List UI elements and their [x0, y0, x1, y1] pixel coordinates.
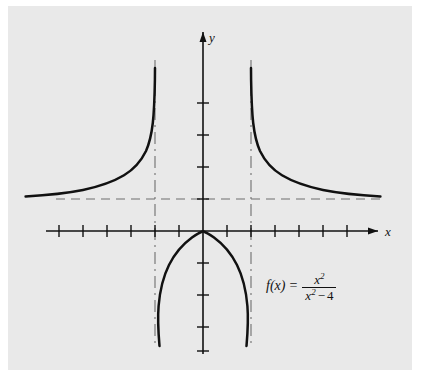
- graph-canvas: y x: [8, 6, 412, 370]
- fraction-denominator: x2−4: [302, 288, 336, 302]
- denominator-exponent: 2: [311, 286, 316, 296]
- plot-panel: y x f(x) = x2 x2−4: [8, 6, 412, 370]
- y-axis-label: y: [207, 30, 215, 45]
- equation-equals-sign: =: [289, 279, 297, 293]
- curve-right-branch: [251, 68, 380, 196]
- denominator-operator: −: [316, 288, 327, 303]
- equation-left-side: f(x): [266, 279, 285, 293]
- equation-fraction: x2 x2−4: [302, 273, 336, 302]
- denominator-constant: 4: [327, 288, 334, 303]
- curve-left-branch: [26, 68, 155, 196]
- y-axis-arrow-icon: [200, 32, 207, 42]
- function-equation: f(x) = x2 x2−4: [266, 262, 376, 310]
- fraction-numerator: x2: [310, 273, 328, 287]
- x-axis-arrow-icon: [368, 228, 378, 235]
- figure-root: y x f(x) = x2 x2−4: [0, 0, 422, 378]
- x-axis-label: x: [384, 224, 391, 239]
- numerator-exponent: 2: [320, 270, 325, 280]
